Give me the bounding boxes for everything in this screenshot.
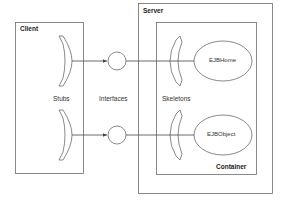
interface-bottom-icon — [108, 126, 126, 144]
skeletons-label: Skeletons — [162, 95, 191, 102]
ejbhome-label: EJBHome — [209, 57, 236, 63]
diagram-canvas — [0, 0, 284, 205]
ejbobject-label: EJBObject — [207, 131, 235, 137]
server-label: Server — [143, 7, 163, 14]
stub-top-icon — [59, 36, 72, 86]
server-box — [139, 4, 273, 194]
interfaces-label: Interfaces — [99, 95, 128, 102]
client-box — [16, 23, 84, 174]
stubs-label: Stubs — [53, 95, 70, 102]
interface-top-icon — [108, 52, 126, 70]
stub-bottom-icon — [59, 110, 72, 160]
client-label: Client — [20, 25, 38, 32]
container-label: Container — [216, 163, 246, 170]
